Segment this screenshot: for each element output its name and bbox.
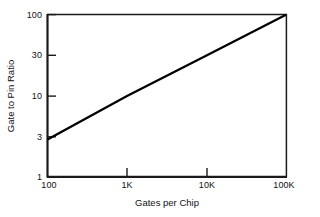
y-tick-label-100: 100 bbox=[14, 10, 42, 19]
y-tick-label-3: 3 bbox=[14, 132, 42, 141]
x-axis-ticks bbox=[127, 168, 207, 177]
data-line-gate-to-pin-ratio bbox=[48, 15, 287, 140]
axis-frame bbox=[47, 14, 287, 178]
x-tick-label-10k: 10K bbox=[187, 181, 227, 190]
y-tick-label-10: 10 bbox=[14, 92, 42, 101]
x-tick-label-1k: 1K bbox=[107, 181, 147, 190]
y-axis-ticks bbox=[48, 15, 57, 137]
x-tick-label-100k: 100K bbox=[262, 181, 306, 190]
y-tick-label-1: 1 bbox=[14, 172, 42, 181]
chart-figure: 100 30 10 3 1 100 1K 10K 100K Gates per … bbox=[0, 0, 320, 217]
x-tick-label-100: 100 bbox=[29, 181, 69, 190]
y-tick-label-30: 30 bbox=[14, 51, 42, 60]
x-axis-title: Gates per Chip bbox=[135, 197, 199, 208]
y-axis-title: Gate to Pin Ratio bbox=[5, 60, 16, 132]
